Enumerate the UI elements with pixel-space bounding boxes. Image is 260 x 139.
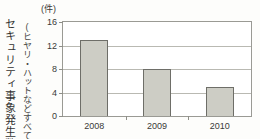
y-tick-mark [59, 46, 63, 47]
y-tick-mark [59, 93, 63, 94]
y-tick-label: 12 [47, 41, 57, 51]
y-axis-title: セキュリティ事象発生数 [4, 18, 15, 139]
y-axis-note: (ヒヤリ・ハットなどすべて軽度なもの) [22, 22, 31, 139]
y-tick-label: 8 [52, 64, 57, 74]
x-tick-label-2009: 2009 [147, 121, 167, 131]
y-tick-mark [59, 69, 63, 70]
y-tick-label: 16 [47, 17, 57, 27]
bar-2010 [206, 87, 234, 116]
y-tick-label: 4 [52, 88, 57, 98]
y-tick-mark [59, 22, 63, 23]
x-tick-label-2010: 2010 [210, 121, 230, 131]
bar-2008 [80, 40, 108, 116]
x-tick-mark [126, 116, 127, 120]
y-axis-unit-label: (件) [41, 2, 56, 15]
y-tick-label: 0 [52, 111, 57, 121]
bar-2009 [143, 69, 171, 116]
plot-area: 0481216200820092010 [62, 21, 252, 117]
x-tick-mark [188, 116, 189, 120]
y-tick-mark [59, 116, 63, 117]
x-tick-label-2008: 2008 [84, 121, 104, 131]
chart-screenshot: セキュリティ事象発生数 (ヒヤリ・ハットなどすべて軽度なもの) (件) 0481… [0, 0, 260, 139]
